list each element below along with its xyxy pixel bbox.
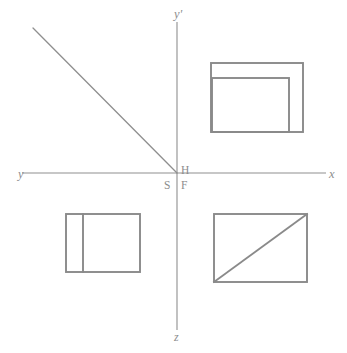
axis-label-y: y [18,168,24,181]
front-view-diagonal-line [214,214,307,282]
diagram-canvas: y' z y x H S F [0,0,347,353]
point-label-f: F [181,180,187,192]
top-view-inner-rect [212,78,289,132]
axis-label-x: x [329,168,335,181]
axis-label-z: z [174,331,179,343]
diagram-svg [0,0,347,353]
axis-label-y-prime: y' [174,8,182,21]
point-label-s: S [164,180,170,192]
projection-ray [33,28,177,173]
point-label-h: H [181,165,189,177]
side-view-rect [66,214,140,272]
